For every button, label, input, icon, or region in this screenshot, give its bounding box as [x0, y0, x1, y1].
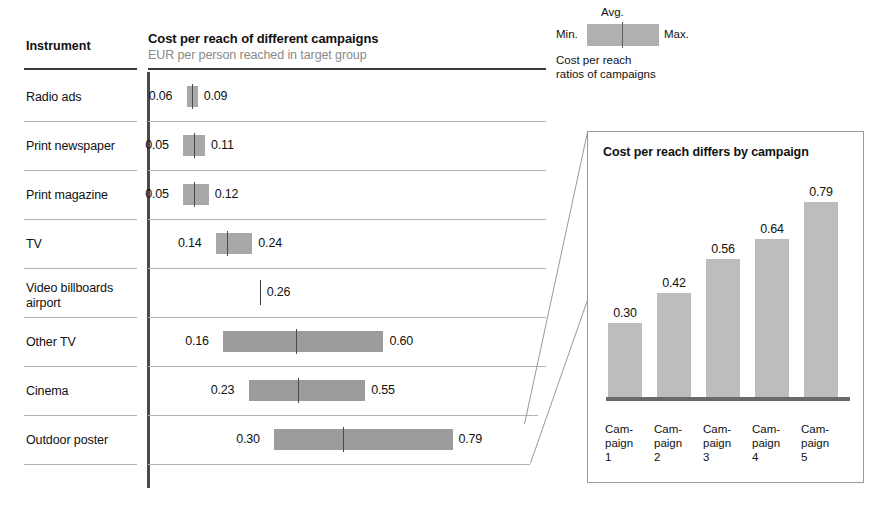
instrument-row-label: Video billboardsairport	[26, 281, 113, 310]
instrument-row: TV0.140.24	[0, 219, 556, 268]
legend-caption-line2: ratios of campaigns	[556, 67, 656, 81]
range-min-value: 0.06	[149, 89, 173, 103]
average-tick	[343, 427, 344, 452]
average-tick	[227, 231, 228, 256]
legend-range-swatch	[587, 24, 659, 46]
campaign-category-label: Cam-paign2	[654, 422, 703, 464]
range-min-value: 0.05	[145, 187, 169, 201]
campaign-bar	[755, 239, 789, 397]
average-tick	[296, 329, 297, 354]
instrument-row: Radio ads0.060.09	[0, 72, 556, 121]
range-max-value: 0.26	[267, 285, 291, 299]
instrument-row-label: Other TV	[26, 335, 76, 350]
campaign-category-label: Cam-paign1	[605, 422, 654, 464]
campaign-category-label-line: Cam-	[801, 422, 850, 436]
range-min-value: 0.16	[185, 334, 209, 348]
range-max-value: 0.09	[204, 89, 228, 103]
campaign-bar	[706, 259, 740, 397]
range-legend: Avg. Min. Max. Cost per reach ratios of …	[556, 6, 786, 92]
instrument-row-label-line: Print magazine	[26, 188, 108, 203]
campaign-category-label: Cam-paign3	[703, 422, 752, 464]
campaign-category-label-line: paign	[605, 436, 654, 450]
campaign-category-label-line: paign	[654, 436, 703, 450]
row-separator-left	[24, 464, 137, 465]
range-max-value: 0.55	[371, 383, 395, 397]
range-max-value: 0.79	[459, 432, 483, 446]
callout-title: Cost per reach differs by campaign	[603, 144, 843, 160]
instrument-column-header: Instrument	[26, 39, 91, 53]
campaign-category-label-line: paign	[801, 436, 850, 450]
header-rule-right	[148, 68, 546, 70]
range-bar	[223, 331, 383, 352]
legend-avg-label: Avg.	[601, 6, 624, 18]
campaign-bar-value: 0.79	[797, 185, 845, 199]
instrument-row-label-line: Radio ads	[26, 90, 81, 105]
instrument-row: Other TV0.160.60	[0, 317, 556, 366]
campaign-category-label-line: 1	[605, 450, 654, 464]
campaign-bar-value: 0.42	[650, 276, 698, 290]
instrument-row: Cinema0.230.55	[0, 366, 556, 415]
campaign-category-label: Cam-paign4	[752, 422, 801, 464]
campaign-callout-panel: Cost per reach differs by campaign 0.30C…	[587, 131, 864, 483]
campaign-category-label-line: Cam-	[703, 422, 752, 436]
header-rule-left	[24, 68, 137, 70]
average-tick	[192, 84, 193, 109]
campaign-bar	[657, 293, 691, 397]
campaign-category-label-line: 3	[703, 450, 752, 464]
instrument-row: Print newspaper0.050.11	[0, 121, 556, 170]
campaign-category-label-line: 4	[752, 450, 801, 464]
campaign-bar-value: 0.30	[601, 306, 649, 320]
instrument-row-label: Cinema	[26, 384, 68, 399]
campaign-bar	[804, 202, 838, 397]
single-value-tick	[260, 280, 262, 305]
campaign-category-label-line: paign	[703, 436, 752, 450]
instrument-row-label: Outdoor poster	[26, 433, 108, 448]
callout-baseline-axis	[606, 397, 850, 401]
legend-caption-line1: Cost per reach	[556, 53, 656, 67]
instrument-row-label-line: airport	[26, 296, 113, 311]
campaign-category-label-line: 5	[801, 450, 850, 464]
range-max-value: 0.11	[211, 138, 234, 152]
campaign-category-label-line: Cam-	[752, 422, 801, 436]
instrument-row-label-line: Video billboards	[26, 281, 113, 296]
range-max-value: 0.24	[258, 236, 282, 250]
range-min-value: 0.05	[145, 138, 169, 152]
instrument-row-label: Print newspaper	[26, 139, 115, 154]
instrument-row-label: TV	[26, 237, 42, 252]
range-bar	[249, 380, 365, 401]
instrument-row: Video billboardsairport0.26	[0, 268, 556, 317]
chart-subtitle: EUR per person reached in target group	[148, 48, 367, 62]
range-bar	[216, 233, 252, 254]
instrument-row: Outdoor poster0.300.79	[0, 415, 556, 464]
instrument-row-label: Radio ads	[26, 90, 81, 105]
average-tick	[194, 133, 195, 158]
legend-caption: Cost per reach ratios of campaigns	[556, 53, 656, 81]
instrument-row-label-line: Other TV	[26, 335, 76, 350]
range-max-value: 0.12	[215, 187, 239, 201]
range-chart-panel: Instrument Cost per reach of different c…	[0, 0, 556, 508]
campaign-bar-value: 0.64	[748, 222, 796, 236]
range-min-value: 0.23	[211, 383, 235, 397]
instrument-row-label-line: Print newspaper	[26, 139, 115, 154]
range-max-value: 0.60	[389, 334, 413, 348]
range-min-value: 0.14	[178, 236, 202, 250]
instrument-row-label: Print magazine	[26, 188, 108, 203]
campaign-category-label: Cam-paign5	[801, 422, 850, 464]
instrument-row-label-line: TV	[26, 237, 42, 252]
campaign-category-label-line: Cam-	[605, 422, 654, 436]
range-bar	[274, 429, 452, 450]
campaign-bar-value: 0.56	[699, 242, 747, 256]
range-bar	[183, 184, 208, 205]
legend-avg-tick	[622, 22, 623, 48]
legend-max-label: Max.	[664, 28, 689, 40]
campaign-category-label-line: Cam-	[654, 422, 703, 436]
range-min-value: 0.30	[236, 432, 260, 446]
instrument-row: Print magazine0.050.12	[0, 170, 556, 219]
campaign-category-label-line: paign	[752, 436, 801, 450]
average-tick	[298, 378, 299, 403]
campaign-bar	[608, 323, 642, 397]
row-separator-right	[148, 464, 530, 465]
instrument-row-label-line: Outdoor poster	[26, 433, 108, 448]
average-tick	[194, 182, 195, 207]
legend-min-label: Min.	[556, 28, 578, 40]
